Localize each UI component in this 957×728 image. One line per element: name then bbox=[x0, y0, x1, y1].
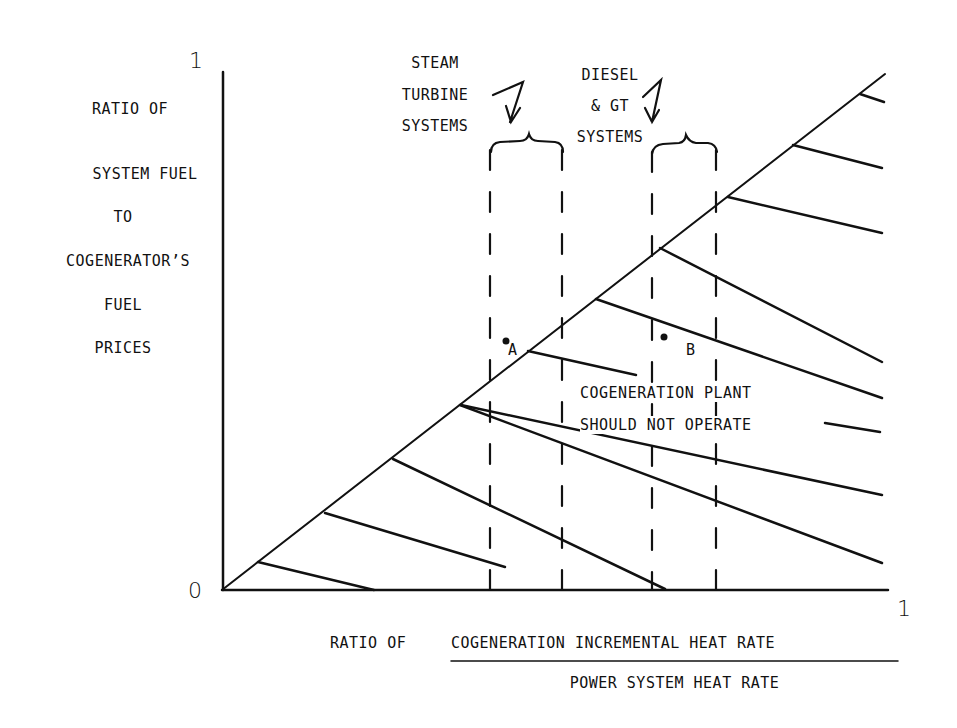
point-b-marker bbox=[661, 334, 668, 341]
y-axis-label-line-5: FUEL bbox=[33, 296, 213, 314]
y-axis-max-label: 1 bbox=[189, 48, 203, 73]
y-axis-label-line-6: PRICES bbox=[33, 339, 213, 357]
breakeven-diagonal bbox=[222, 74, 885, 590]
y-axis-label-line-4: COGENERATOR’S bbox=[38, 252, 218, 270]
y-axis-label-line-3: TO bbox=[33, 208, 213, 226]
y-axis-label-line-1: RATIO OF bbox=[40, 100, 220, 118]
steam-band-label-line-2: TURBINE bbox=[380, 86, 490, 104]
x-axis-label-numerator: COGENERATION INCREMENTAL HEAT RATE bbox=[451, 634, 775, 652]
y-axis-label-line-2: SYSTEM FUEL bbox=[55, 165, 235, 183]
x-axis-max-label: 1 bbox=[897, 596, 911, 621]
hatch-lines bbox=[258, 94, 884, 590]
steam-turbine-brace bbox=[491, 134, 563, 152]
region-label-line-1: COGENERATION PLANT bbox=[580, 384, 752, 402]
point-a-label: A bbox=[508, 341, 518, 359]
point-b-label: B bbox=[686, 341, 696, 359]
x-axis-label-denominator: POWER SYSTEM HEAT RATE bbox=[451, 674, 898, 692]
region-label-line-2: SHOULD NOT OPERATE bbox=[580, 416, 752, 434]
diesel-band-label-line-1: DIESEL bbox=[555, 66, 665, 84]
steam-arrow bbox=[493, 82, 523, 122]
y-axis-min-label: 0 bbox=[188, 578, 202, 603]
steam-band-label-line-3: SYSTEMS bbox=[380, 117, 490, 135]
steam-band-label-line-1: STEAM bbox=[380, 54, 490, 72]
x-axis-label-prefix: RATIO OF bbox=[330, 634, 406, 652]
diesel-band-label-line-2: & GT bbox=[555, 97, 665, 115]
diesel-band-label-line-3: SYSTEMS bbox=[555, 128, 665, 146]
band-boundaries bbox=[490, 150, 716, 590]
